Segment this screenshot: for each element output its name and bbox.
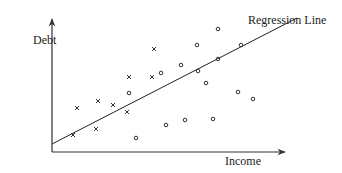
x-marker — [152, 47, 156, 51]
o-marker — [164, 123, 168, 127]
data-points — [71, 27, 255, 140]
x-marker — [94, 127, 98, 131]
y-axis-label: Debt — [33, 34, 56, 46]
x-axis-label: Income — [225, 155, 261, 167]
o-marker — [211, 117, 215, 121]
o-marker — [195, 43, 199, 47]
x-marker — [125, 110, 129, 114]
o-marker — [251, 97, 255, 101]
x-marker — [75, 106, 79, 110]
regression-line — [52, 18, 297, 144]
o-marker — [216, 27, 220, 31]
x-marker — [96, 99, 100, 103]
x-marker — [150, 75, 154, 79]
o-marker — [127, 91, 131, 95]
o-marker — [159, 71, 163, 75]
x-marker — [111, 103, 115, 107]
o-marker — [236, 90, 240, 94]
regression-line-label: Regression Line — [248, 14, 326, 26]
o-marker — [179, 63, 183, 67]
x-marker — [127, 75, 131, 79]
o-marker — [204, 81, 208, 85]
o-marker — [196, 69, 200, 73]
o-marker — [134, 136, 138, 140]
o-marker — [183, 118, 187, 122]
